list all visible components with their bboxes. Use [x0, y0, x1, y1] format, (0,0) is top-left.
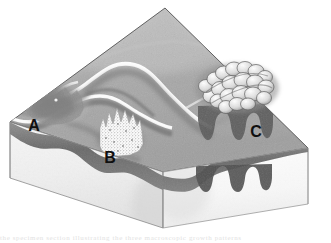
caption-fragment: the specimen section illustrating the th… — [0, 233, 331, 243]
lesion-label-b: B — [104, 149, 116, 166]
tissue-block-illustration: A B C — [0, 0, 331, 243]
lesion-label-c: C — [250, 123, 262, 140]
lesion-label-a: A — [28, 117, 40, 134]
lesion-c-exophytic-fungating — [195, 62, 279, 193]
figure-root: A B C the specimen section illustrating … — [0, 0, 331, 243]
